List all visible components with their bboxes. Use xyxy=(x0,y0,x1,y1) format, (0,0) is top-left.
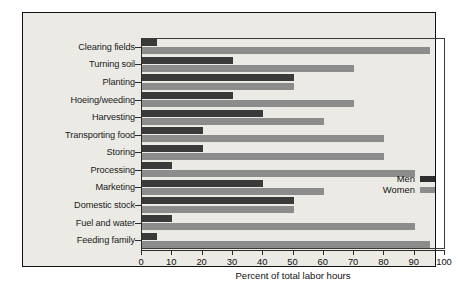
x-axis-title: Percent of total labor hours xyxy=(141,270,445,281)
bar-men xyxy=(142,180,263,187)
y-axis-tick xyxy=(135,100,142,101)
chart-panel: Clearing fieldsTurning soilPlantingHoein… xyxy=(22,12,436,267)
bar-men xyxy=(142,197,294,204)
x-axis-tick xyxy=(353,250,354,255)
bar-women xyxy=(142,118,324,125)
bar-women xyxy=(142,100,354,107)
category-label: Transporting food xyxy=(47,129,135,141)
x-axis-tick-label: 20 xyxy=(196,256,206,267)
category-label: Turning soil xyxy=(47,58,135,70)
y-axis-tick xyxy=(135,117,142,118)
x-axis-tick xyxy=(232,250,233,255)
legend-label-men: Men xyxy=(397,173,415,184)
x-axis-tick-label: 60 xyxy=(318,256,328,267)
y-axis-tick xyxy=(135,64,142,65)
bar-series-container xyxy=(142,38,445,249)
x-axis-tick-label: 80 xyxy=(378,256,388,267)
bar-women xyxy=(142,241,430,248)
bar-women xyxy=(142,47,430,54)
y-axis-tick xyxy=(135,152,142,153)
x-axis-tick xyxy=(383,250,384,255)
bar-men xyxy=(142,92,233,99)
category-label: Clearing fields xyxy=(47,41,135,53)
bar-men xyxy=(142,110,263,117)
y-axis-tick xyxy=(135,205,142,206)
y-axis-tick xyxy=(135,187,142,188)
category-label: Fuel and water xyxy=(47,217,135,229)
y-axis-tick xyxy=(135,223,142,224)
women-swatch-icon xyxy=(420,187,435,193)
category-label: Processing xyxy=(47,164,135,176)
category-label: Storing xyxy=(47,146,135,158)
category-label: Marketing xyxy=(47,181,135,193)
x-axis-tick-label: 90 xyxy=(408,256,418,267)
category-label: Domestic stock xyxy=(47,199,135,211)
x-axis-tick-label: 40 xyxy=(257,256,267,267)
category-axis-labels: Clearing fieldsTurning soilPlantingHoein… xyxy=(47,38,135,249)
men-swatch-icon xyxy=(420,176,435,182)
bar-women xyxy=(142,188,324,195)
bar-women xyxy=(142,153,384,160)
x-axis-tick-label: 0 xyxy=(138,256,143,267)
legend-label-women: Women xyxy=(383,184,415,195)
chart-figure: Clearing fieldsTurning soilPlantingHoein… xyxy=(0,0,459,283)
chart-legend: Men Women xyxy=(353,173,435,195)
x-axis-tick-label: 10 xyxy=(166,256,176,267)
bar-men xyxy=(142,74,294,81)
y-axis-tick xyxy=(135,170,142,171)
x-axis-tick xyxy=(262,250,263,255)
bar-men xyxy=(142,162,172,169)
category-label: Planting xyxy=(47,76,135,88)
bar-women xyxy=(142,83,294,90)
category-label: Harvesting xyxy=(47,111,135,123)
category-label: Feeding family xyxy=(47,234,135,246)
bar-women xyxy=(142,223,415,230)
bar-men xyxy=(142,145,203,152)
legend-item-men: Men xyxy=(353,173,435,184)
x-axis-tick xyxy=(293,250,294,255)
x-axis-tick-label: 50 xyxy=(287,256,297,267)
bar-women xyxy=(142,135,384,142)
x-axis-tick-label: 30 xyxy=(227,256,237,267)
y-axis-tick xyxy=(135,240,142,241)
x-axis-tick xyxy=(171,250,172,255)
x-axis-tick xyxy=(414,250,415,255)
bar-men xyxy=(142,39,157,46)
category-label: Hoeing/weeding xyxy=(47,94,135,106)
bar-men xyxy=(142,57,233,64)
x-axis-tick xyxy=(323,250,324,255)
bar-women xyxy=(142,206,294,213)
legend-item-women: Women xyxy=(353,184,435,195)
bar-men xyxy=(142,215,172,222)
x-axis-tick xyxy=(141,250,142,255)
bar-men xyxy=(142,127,203,134)
y-axis-tick xyxy=(135,135,142,136)
bar-men xyxy=(142,233,157,240)
y-axis-tick xyxy=(135,82,142,83)
bar-women xyxy=(142,65,354,72)
x-axis-tick-label: 70 xyxy=(348,256,358,267)
x-axis-tick xyxy=(202,250,203,255)
y-axis-tick xyxy=(135,47,142,48)
x-axis-tick-label: 100 xyxy=(436,256,452,267)
x-axis-tick xyxy=(444,250,445,255)
